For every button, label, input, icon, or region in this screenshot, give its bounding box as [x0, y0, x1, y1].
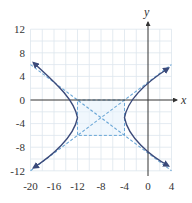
x-tick: -20	[23, 180, 38, 192]
x-tick: 4	[169, 180, 175, 192]
y-tick: 4	[20, 70, 26, 82]
y-tick: 12	[14, 23, 25, 35]
y-tick-labels: 12 8 4 0 -4 -8 -12	[10, 23, 25, 177]
x-tick: -12	[70, 180, 85, 192]
x-tick-labels: -20 -16 -12 -8 -4 0 4	[23, 180, 175, 192]
x-tick: -8	[96, 180, 106, 192]
y-tick: -4	[16, 117, 26, 129]
y-tick: 8	[20, 47, 26, 59]
y-tick: 0	[20, 94, 26, 106]
x-tick: -16	[47, 180, 62, 192]
y-axis-label: y	[143, 5, 150, 19]
x-axis-label: x	[180, 93, 187, 107]
x-tick: -4	[120, 180, 130, 192]
hyperbola-graph: x y -20 -16 -12 -8 -4 0 4 12 8 4 0 -4 -8…	[0, 0, 192, 203]
y-tick: -12	[10, 165, 25, 177]
y-tick: -8	[16, 141, 26, 153]
x-tick: 0	[145, 180, 151, 192]
